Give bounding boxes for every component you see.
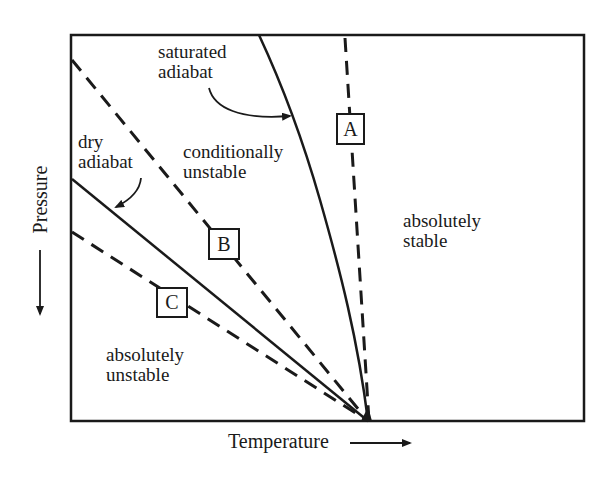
y-axis-title: Pressure (29, 154, 52, 246)
profile-a-marker: A (336, 113, 365, 145)
region-label-line1: absolutely (106, 345, 184, 365)
dry-adiabat-label: dry adiabat (78, 132, 133, 172)
region-label-line2: stable (403, 231, 481, 251)
profile-a-line (345, 38, 369, 421)
region-label-line1: conditionally (183, 142, 283, 162)
dry-adiabat-label-line2: adiabat (78, 152, 133, 172)
dry-adiabat-pointer-arrow (116, 178, 141, 207)
region-label-line2: unstable (183, 162, 283, 182)
profile-c-marker: C (156, 287, 188, 318)
x-axis-title: Temperature (228, 430, 329, 453)
region-label-line2: unstable (106, 365, 184, 385)
profile-b-marker: B (208, 228, 240, 260)
saturated-adiabat-label-line2: adiabat (158, 62, 227, 82)
region-label-line1: absolutely (403, 211, 481, 231)
profile-c-line (72, 232, 368, 421)
absolutely-unstable-region-label: absolutely unstable (106, 345, 184, 385)
conditionally-unstable-region-label: conditionally unstable (183, 142, 283, 182)
saturated-adiabat-pointer-arrow (209, 88, 290, 117)
stability-diagram (0, 0, 612, 478)
dry-adiabat-label-line1: dry (78, 132, 133, 152)
saturated-adiabat-label: saturated adiabat (158, 42, 227, 82)
saturated-adiabat-label-line1: saturated (158, 42, 227, 62)
absolutely-stable-region-label: absolutely stable (403, 211, 481, 251)
